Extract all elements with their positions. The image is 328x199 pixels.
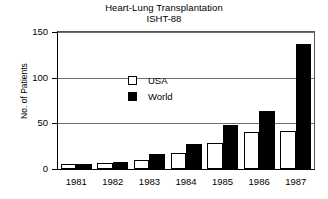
bar-usa-1986 bbox=[244, 132, 260, 169]
legend-swatch-world-icon bbox=[128, 92, 137, 101]
legend-swatch-usa-icon bbox=[128, 76, 137, 85]
bar-usa-1981 bbox=[61, 164, 77, 169]
chart-figure: Heart-Lung Transplantation ISHT-88 No. o… bbox=[0, 0, 328, 199]
bar-world-1987 bbox=[296, 44, 312, 169]
bar-usa-1987 bbox=[280, 131, 296, 169]
gridline bbox=[58, 78, 314, 79]
x-axis-tick-label: 1983 bbox=[129, 176, 169, 187]
gridline bbox=[58, 32, 314, 33]
chart-legend: USA World bbox=[128, 73, 173, 105]
bar-world-1982 bbox=[113, 162, 129, 169]
x-axis-tick-label: 1985 bbox=[203, 176, 243, 187]
chart-title: Heart-Lung Transplantation bbox=[0, 2, 328, 13]
bar-world-1984 bbox=[186, 144, 202, 169]
gridline bbox=[58, 123, 314, 124]
bar-world-1983 bbox=[149, 154, 165, 169]
bar-usa-1985 bbox=[207, 143, 223, 169]
x-axis-tick-label: 1982 bbox=[93, 176, 133, 187]
y-axis-label: No. of Patients bbox=[19, 36, 29, 146]
y-axis-tick-label: 50 bbox=[14, 117, 48, 128]
legend-item-usa: USA bbox=[128, 73, 173, 87]
y-axis-tick-label: 150 bbox=[14, 26, 48, 37]
y-axis-tick-label: 0 bbox=[14, 163, 48, 174]
bar-world-1986 bbox=[259, 111, 275, 169]
bar-usa-1984 bbox=[171, 153, 187, 169]
x-axis-tick-label: 1986 bbox=[239, 176, 279, 187]
legend-item-world: World bbox=[128, 89, 173, 103]
x-axis-tick-label: 1984 bbox=[166, 176, 206, 187]
bar-world-1985 bbox=[223, 125, 239, 169]
x-axis-tick-label: 1987 bbox=[276, 176, 316, 187]
legend-label-world: World bbox=[148, 91, 173, 102]
plot-area: USA World bbox=[57, 31, 315, 170]
chart-title-block: Heart-Lung Transplantation ISHT-88 bbox=[0, 2, 328, 24]
bar-world-1981 bbox=[76, 164, 92, 169]
legend-label-usa: USA bbox=[148, 75, 168, 86]
chart-subtitle: ISHT-88 bbox=[0, 13, 328, 24]
x-axis-tick-label: 1981 bbox=[56, 176, 96, 187]
y-axis-tick-label: 100 bbox=[14, 72, 48, 83]
bar-usa-1983 bbox=[134, 160, 150, 169]
bar-usa-1982 bbox=[97, 163, 113, 169]
